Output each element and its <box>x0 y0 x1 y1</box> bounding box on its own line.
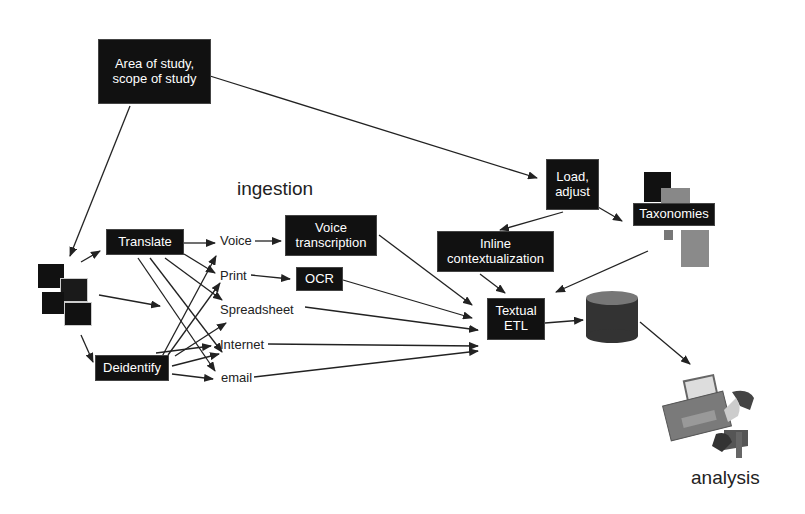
load-adjust-label: Load, adjust <box>547 170 598 200</box>
scope-of-study-box: Area of study, scope of study <box>98 39 211 104</box>
taxonomies-box: Taxonomies <box>633 203 715 226</box>
source-internet: Internet <box>220 337 264 352</box>
source-email: email <box>221 370 252 385</box>
voice-transcription-label: Voice transcription <box>286 221 376 251</box>
textual-etl-box: Textual ETL <box>487 298 545 340</box>
deidentify-label: Deidentify <box>103 361 161 376</box>
inline-contextualization-label: Inline contextualization <box>438 237 553 267</box>
translate-box: Translate <box>106 229 184 255</box>
deidentify-box: Deidentify <box>95 355 169 381</box>
scope-of-study-label: Area of study, scope of study <box>99 57 210 87</box>
database-icon <box>585 290 641 346</box>
taxonomies-label: Taxonomies <box>639 207 708 222</box>
source-print: Print <box>220 268 247 283</box>
documents-icon <box>38 260 98 326</box>
workstation-analysis-icon <box>662 370 762 460</box>
ingestion-label: ingestion <box>237 178 313 200</box>
ocr-label: OCR <box>305 272 334 287</box>
analysis-label: analysis <box>691 467 760 489</box>
translate-label: Translate <box>118 235 172 250</box>
source-voice: Voice <box>220 233 252 248</box>
textual-etl-label: Textual ETL <box>488 304 544 334</box>
ocr-box: OCR <box>296 267 343 291</box>
inline-contextualization-box: Inline contextualization <box>437 231 554 272</box>
load-adjust-box: Load, adjust <box>546 159 599 210</box>
source-spreadsheet: Spreadsheet <box>220 302 294 317</box>
voice-transcription-box: Voice transcription <box>285 215 377 256</box>
